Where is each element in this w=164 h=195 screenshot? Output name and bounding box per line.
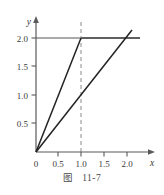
x-axis-label: x xyxy=(149,158,155,168)
caption-label: 图 xyxy=(63,170,74,184)
figure-container: 2.0 1.5 1.0 0.5 0 0.5 1.0 1.5 2.0 y x 图1… xyxy=(0,0,164,195)
y-axis-arrow-icon xyxy=(33,16,39,23)
y-tick-label-1.5: 1.5 xyxy=(17,62,29,72)
y-tick-label-2.0: 2.0 xyxy=(17,34,29,44)
x-tick-label-1.0: 1.0 xyxy=(75,159,87,169)
steep-ray-line xyxy=(36,38,81,152)
caption-number: 11-7 xyxy=(82,173,101,183)
x-tick-label-0: 0 xyxy=(34,159,39,169)
plot-canvas: 2.0 1.5 1.0 0.5 0 0.5 1.0 1.5 2.0 y x xyxy=(0,0,164,170)
y-tick-label-1.0: 1.0 xyxy=(17,91,29,101)
x-tick-label-0.5: 0.5 xyxy=(52,159,64,169)
y-axis-label: y xyxy=(26,17,32,27)
x-tick-label-1.5: 1.5 xyxy=(98,159,110,169)
figure-caption: 图11-7 xyxy=(0,170,164,184)
y-tick-label-0.5: 0.5 xyxy=(17,119,29,129)
x-tick-label-2.0: 2.0 xyxy=(121,159,133,169)
shallow-ray-line xyxy=(36,30,132,152)
x-axis-arrow-icon xyxy=(148,149,155,155)
